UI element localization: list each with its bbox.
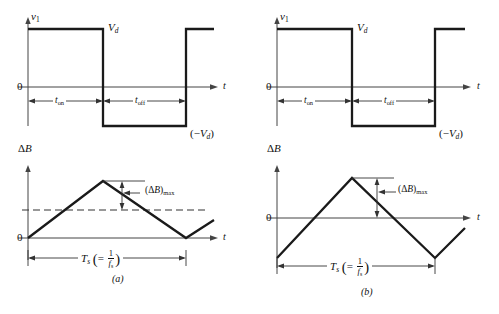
- panel-a-flux-y-axis-label: ΔB: [18, 143, 32, 154]
- x-axis-arrowhead: [463, 84, 471, 89]
- panel-a-vd-label: Vd: [108, 22, 118, 35]
- panel-a-flux-origin-label: 0: [17, 232, 23, 243]
- period-arrow-left: [277, 264, 284, 269]
- panel-a-voltage-origin-label: 0: [17, 81, 23, 92]
- period-arrow-right: [179, 256, 186, 261]
- panel-a-period-label: Ts (= 1fs): [78, 249, 123, 269]
- x-axis-arrowhead: [210, 84, 218, 89]
- y-axis-arrowhead: [25, 17, 30, 24]
- y-axis-arrowhead: [274, 17, 279, 24]
- panel-a-voltage-x-axis-label: t: [223, 81, 226, 91]
- panel-a-flux-x-axis-label: t: [223, 232, 226, 242]
- panel-a-voltage-y-axis-label: v1: [31, 11, 40, 24]
- deltab-leader-arrowhead: [378, 190, 385, 195]
- panel-b-voltage-origin-label: 0: [266, 81, 272, 92]
- panel-a-negative-vd-label: (−Vd): [190, 128, 214, 141]
- panel-b-caption: (b): [361, 287, 373, 297]
- period-arrow-left: [28, 256, 35, 261]
- flux-x-axis-arrowhead: [463, 215, 471, 220]
- panel-b-ton-label: ton: [302, 96, 315, 106]
- panel-a-toff-label: toff: [133, 96, 147, 106]
- flux-y-axis-arrowhead: [25, 165, 30, 172]
- panel-b-flux-origin-label: 0: [266, 212, 272, 223]
- panel-b-period-label: Ts (= 1fs): [327, 257, 372, 277]
- ton-arrow-left: [28, 99, 35, 104]
- figure-container: v1 0 t Vd (−Vd) ton toff ΔB 0 t (ΔB)max …: [0, 0, 499, 314]
- deltab-arrow-up: [375, 178, 380, 185]
- panel-b-flux-y-axis-label: ΔB: [267, 143, 281, 154]
- panel-b-negative-vd-label: (−Vd): [439, 128, 463, 141]
- flux-x-axis-arrowhead: [210, 235, 218, 240]
- voltage-waveform: [277, 29, 465, 126]
- panel-a-deltab-max-label: (ΔB)max: [145, 186, 174, 196]
- panel-b-toff-label: toff: [382, 96, 396, 106]
- period-arrow-right: [428, 264, 435, 269]
- voltage-waveform: [28, 29, 214, 126]
- panel-b-voltage-x-axis-label: t: [477, 81, 480, 91]
- deltab-arrow-down: [120, 203, 125, 210]
- panel-b-flux-plot: [249, 150, 499, 290]
- ton-arrow-left: [277, 99, 284, 104]
- panel-a-caption: (a): [112, 274, 124, 284]
- panel-b-vd-label: Vd: [357, 22, 367, 35]
- deltab-arrow-down: [375, 211, 380, 218]
- panel-a-ton-label: ton: [53, 96, 66, 106]
- deltab-arrow-up: [120, 181, 125, 188]
- panel-b-flux-x-axis-label: t: [477, 212, 480, 222]
- flux-y-axis-arrowhead: [274, 165, 279, 172]
- panel-b-deltab-max-label: (ΔB)max: [398, 185, 427, 195]
- panel-b-voltage-y-axis-label: v1: [280, 11, 289, 24]
